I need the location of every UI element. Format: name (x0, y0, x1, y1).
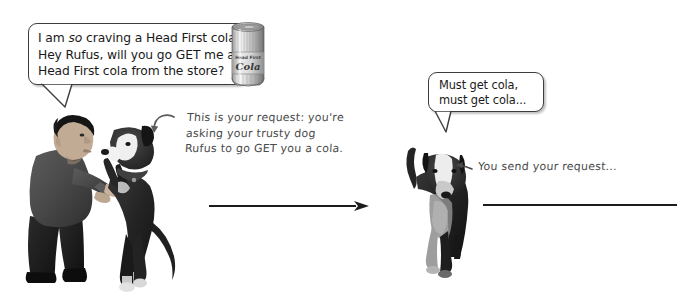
left-request-bubble: I am so craving a Head First cola... Hey… (28, 23, 246, 85)
small-arrow-left-icon (455, 160, 473, 174)
bubble-line2: Hey Rufus, will you go GET me a (38, 48, 235, 62)
bubble-line1-pre: I am (38, 31, 68, 45)
man-asking-dog-photo (22, 104, 187, 294)
send-annotation-text: You send your request... (477, 159, 617, 175)
request-annotation-line1: This is your request: you're (187, 111, 345, 124)
request-annotation-line2: asking your trusty dog (186, 127, 317, 140)
head-first-cola-can: Head First Cola (228, 19, 268, 89)
bubble-line1-italic: so (68, 31, 82, 45)
left-bubble-text: I am so craving a Head First cola... Hey… (38, 30, 247, 80)
dog-running-photo (404, 143, 490, 283)
right-bubble-tail (432, 109, 472, 135)
bubble-line1-post: craving a Head First cola... (82, 31, 247, 45)
request-annotation-text: This is your request: you're asking your… (184, 110, 346, 157)
bubble-line3: Head First cola from the store? (38, 64, 224, 78)
send-annotation-line1: You send your request... (478, 160, 618, 173)
request-arrow (206, 198, 371, 214)
request-annotation-line3: Rufus to go GET you a cola. (184, 142, 343, 155)
right-bubble-text: Must get cola, must get cola... (439, 78, 526, 108)
right-dog-bubble: Must get cola, must get cola... (428, 72, 544, 112)
right-bubble-line2: must get cola... (439, 93, 526, 107)
right-bubble-line1: Must get cola, (439, 78, 518, 92)
continuation-rule (482, 199, 677, 211)
diagram-canvas: I am so craving a Head First cola... Hey… (0, 0, 677, 297)
